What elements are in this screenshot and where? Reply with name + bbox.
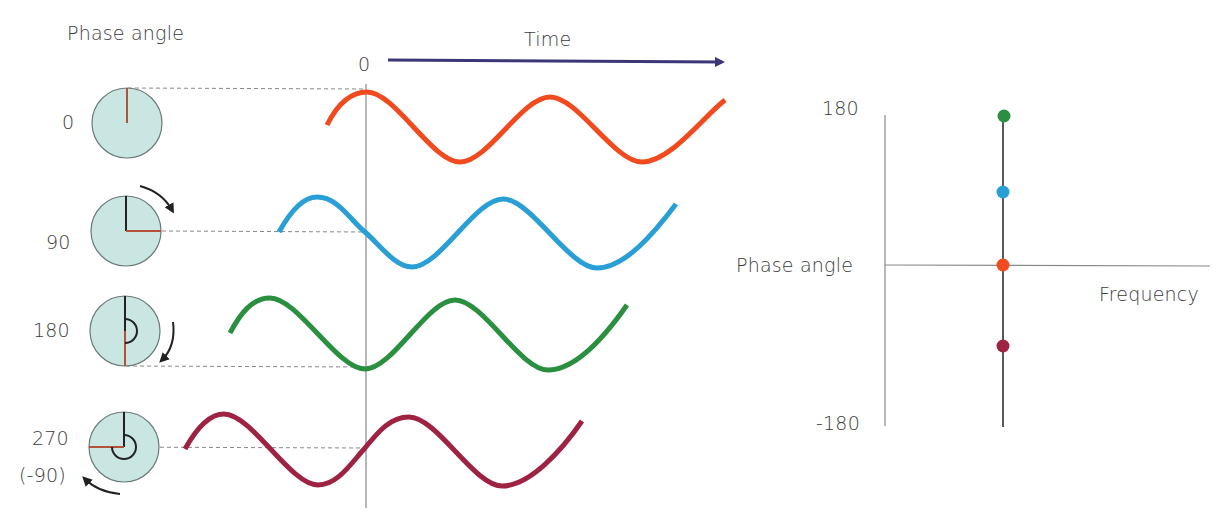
y-axis-label: Phase angle	[736, 254, 853, 276]
row-label-90: 90	[46, 231, 71, 253]
x-axis-label: Frequency	[1099, 283, 1199, 305]
y-bottom-tick-label: -180	[816, 412, 860, 434]
row-label-270: 270	[32, 427, 69, 449]
phase-angle-title: Phase angle	[67, 22, 184, 44]
row-sublabel-270: (-90)	[19, 464, 66, 486]
phase-disc-90	[91, 196, 161, 266]
phase-diagram-canvas	[0, 0, 1230, 525]
guide-line-90	[162, 231, 366, 232]
guide-line-180	[126, 366, 366, 367]
point-phase-90	[997, 186, 1010, 199]
phase-disc-180	[90, 296, 160, 366]
guide-line-0	[128, 88, 366, 89]
wave-phase-90	[279, 197, 676, 268]
point-phase-180	[998, 110, 1011, 123]
row-label-180: 180	[33, 319, 70, 341]
wave-phase-270	[185, 414, 582, 486]
y-top-tick-label: 180	[822, 97, 859, 119]
wave-phase-180	[230, 298, 627, 370]
time-zero-label: 0	[358, 53, 370, 75]
row-label-0: 0	[62, 111, 74, 133]
wave-phase-0	[327, 92, 725, 162]
frequency-x-axis	[885, 265, 1210, 266]
time-arrow	[388, 60, 722, 62]
phase-disc-0	[92, 88, 162, 158]
time-label: Time	[524, 28, 571, 50]
point-phase-0	[997, 259, 1010, 272]
rotation-arrow-clockwise-icon	[162, 322, 174, 360]
phase-disc-270	[89, 412, 159, 482]
point-phase-minus-90	[997, 340, 1010, 353]
